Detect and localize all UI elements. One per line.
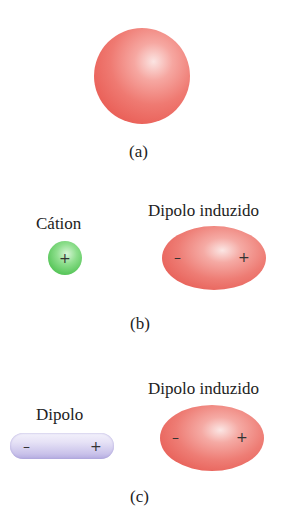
permanent-dipole: – + (10, 433, 114, 459)
cation-sphere: + (48, 241, 82, 275)
induced-plus-sign-b: + (238, 250, 250, 264)
induced-plus-sign-c: + (236, 430, 248, 444)
induced-minus-sign-c: – (172, 430, 179, 444)
induced-minus-sign-b: – (174, 250, 181, 264)
induced-dipole-ellipse-b: – + (162, 226, 266, 290)
caption-c: (c) (130, 488, 149, 505)
caption-a: (a) (129, 143, 148, 160)
induced-dipole-label-c: Dipolo induzido (148, 380, 259, 397)
dipole-plus-sign: + (90, 439, 102, 453)
induced-dipole-ellipse-c: – + (160, 405, 264, 471)
neutral-atom-sphere (94, 28, 190, 124)
cation-plus-sign: + (59, 251, 71, 265)
caption-b: (b) (130, 315, 150, 332)
dipole-label: Dipolo (36, 406, 83, 423)
induced-dipole-label-b: Dipolo induzido (148, 202, 259, 219)
cation-label: Cátion (36, 215, 81, 232)
dipole-minus-sign: – (23, 439, 30, 453)
